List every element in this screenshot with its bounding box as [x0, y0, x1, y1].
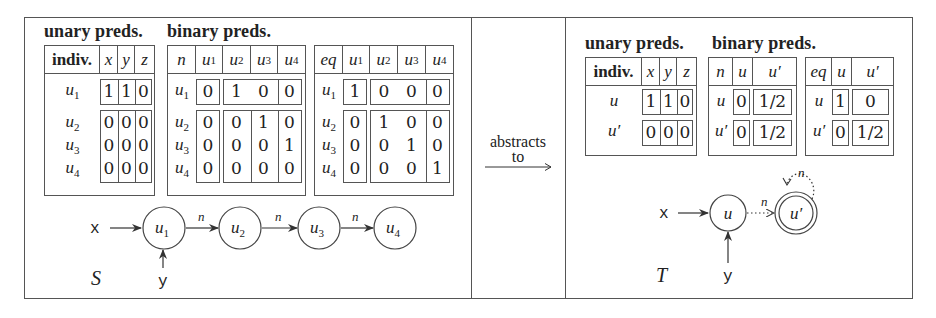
shape-graph-t: x y T u u′ n n — [566, 0, 912, 318]
abstracts-arrow-icon — [471, 160, 565, 174]
node-u1: u1 — [143, 207, 185, 249]
svg-text:u2: u2 — [231, 218, 245, 239]
node-u: u — [710, 195, 746, 231]
structure-label-t: T — [656, 264, 669, 286]
edge-label-n: n — [761, 194, 768, 209]
structure-label-s: S — [91, 267, 101, 289]
var-x-label: x — [90, 220, 100, 238]
edge-label-n: n — [352, 209, 359, 224]
node-u2: u2 — [219, 207, 261, 249]
svg-text:u3: u3 — [310, 218, 325, 239]
node-u4: u4 — [374, 207, 416, 249]
self-loop-label-n: n — [798, 165, 805, 180]
node-u3: u3 — [298, 207, 340, 249]
svg-text:u′: u′ — [790, 204, 803, 223]
edge-label-n: n — [275, 209, 282, 224]
var-x-label: x — [659, 205, 669, 223]
var-y-label: y — [723, 268, 733, 286]
shape-graph-s: x y S u1 u2 u3 u4 n n n — [0, 0, 471, 318]
svg-text:u1: u1 — [155, 218, 169, 239]
var-y-label: y — [158, 273, 168, 291]
svg-text:u: u — [724, 204, 733, 223]
svg-text:u4: u4 — [386, 218, 401, 239]
summary-node-u-prime: u′ — [775, 192, 817, 234]
edge-label-n: n — [198, 209, 205, 224]
